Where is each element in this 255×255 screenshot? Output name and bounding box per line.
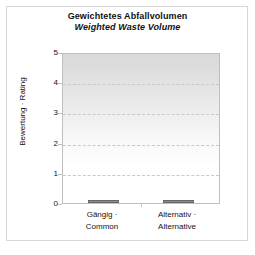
x-axis-label-alternative-line2: Alternative: [137, 221, 217, 233]
y-tick-label-2: 2: [44, 140, 58, 148]
chart-title-block: Gewichtetes Abfallvolumen Weighted Waste…: [0, 11, 255, 34]
bar-common[interactable]: [88, 200, 119, 203]
chart-figure: Gewichtetes Abfallvolumen Weighted Waste…: [0, 0, 255, 255]
bar-alternative[interactable]: [163, 200, 194, 203]
x-axis-label-alternative-line1: Alternativ ·: [137, 209, 217, 221]
y-tick-label-5: 5: [44, 49, 58, 57]
chart-title-german: Gewichtetes Abfallvolumen: [0, 11, 255, 22]
x-axis-label-common: Gängig · Common: [62, 209, 142, 232]
y-tick-label-4: 4: [44, 79, 58, 87]
gridline-4: [63, 84, 219, 85]
x-axis-label-alternative: Alternativ · Alternative: [137, 209, 217, 232]
x-tick-mark-center: [141, 204, 142, 207]
y-axis-title: Bewertung · Rating: [18, 52, 27, 172]
gridline-3: [63, 114, 219, 115]
chart-title-english: Weighted Waste Volume: [0, 22, 255, 33]
y-tick-label-3: 3: [44, 109, 58, 117]
y-tick-label-1: 1: [44, 170, 58, 178]
y-tick-mark-0: [58, 204, 62, 205]
y-tick-label-0: 0: [44, 200, 58, 208]
x-axis-label-common-line2: Common: [62, 221, 142, 233]
gridline-2: [63, 145, 219, 146]
x-axis-label-common-line1: Gängig ·: [62, 209, 142, 221]
y-axis-tick-labels: 5 4 3 2 1 0: [44, 53, 58, 204]
plot-area: [62, 53, 220, 204]
gridline-1: [63, 175, 219, 176]
